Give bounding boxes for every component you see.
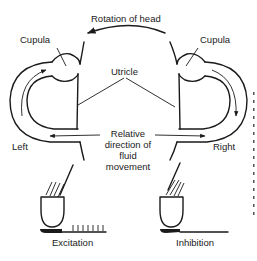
excitation-label: Excitation bbox=[52, 237, 93, 248]
fluid-direction-label: Relative direction of fluid movement bbox=[105, 128, 152, 172]
rotation-of-head-label: Rotation of head bbox=[91, 13, 161, 24]
vestibular-diagram: Rotation of head Cupula Cupula Utricle bbox=[0, 0, 257, 261]
left-hair-cell bbox=[40, 165, 106, 233]
left-cupula-label: Cupula bbox=[20, 34, 51, 45]
utricle-pointer-right bbox=[126, 78, 175, 107]
excitation-spike-train bbox=[73, 225, 103, 231]
utricle-label: Utricle bbox=[111, 66, 138, 77]
right-side-label: Right bbox=[213, 141, 236, 152]
right-cupula-pointer bbox=[186, 48, 198, 66]
left-side-label: Left bbox=[12, 141, 28, 152]
svg-text:fluid: fluid bbox=[119, 150, 136, 161]
svg-text:Relative: Relative bbox=[111, 128, 145, 139]
right-hair-cell bbox=[160, 163, 228, 233]
svg-text:direction of: direction of bbox=[105, 139, 152, 150]
rotation-arrow bbox=[88, 26, 165, 34]
utricle-pointer-left bbox=[78, 78, 124, 105]
left-cupula-pointer bbox=[57, 48, 66, 66]
inhibition-label: Inhibition bbox=[176, 237, 214, 248]
truncated-text-edge bbox=[253, 92, 255, 215]
svg-text:movement: movement bbox=[106, 161, 151, 172]
right-cupula-label: Cupula bbox=[200, 34, 231, 45]
